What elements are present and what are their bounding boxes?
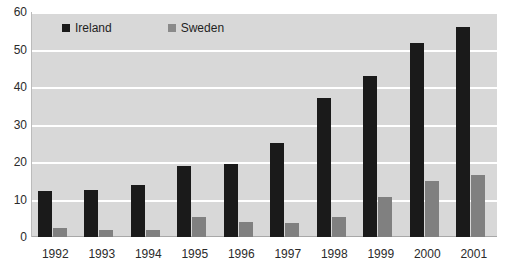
bar-sweden-1998 <box>332 217 346 237</box>
x-axis-tick-label: 1992 <box>32 248 79 260</box>
bar-group <box>79 12 126 237</box>
x-axis-tick-label: 1999 <box>358 248 405 260</box>
bar-ireland-1997 <box>270 143 284 237</box>
x-axis-tick-label: 1993 <box>79 248 126 260</box>
bar-ireland-1998 <box>317 98 331 237</box>
legend-label-sweden: Sweden <box>181 22 224 34</box>
legend-item-ireland: Ireland <box>62 22 112 34</box>
x-axis-tick-label: 2000 <box>404 248 451 260</box>
bar-ireland-1999 <box>363 76 377 237</box>
bar-group <box>404 12 451 237</box>
y-axis-tick-label: 40 <box>14 81 27 93</box>
bar-ireland-2000 <box>410 43 424 237</box>
x-axis-tick-label: 1998 <box>311 248 358 260</box>
y-axis-tick-label: 20 <box>14 156 27 168</box>
bar-group <box>125 12 172 237</box>
x-axis-tick-label: 1997 <box>265 248 312 260</box>
bar-group <box>265 12 312 237</box>
bar-sweden-1993 <box>99 230 113 237</box>
bar-ireland-1995 <box>177 166 191 237</box>
y-axis-tick-label: 60 <box>14 6 27 18</box>
bar-group <box>451 12 498 237</box>
x-axis-tick-label: 1995 <box>172 248 219 260</box>
bar-chart: 0102030405060 19921993199419951996199719… <box>0 0 506 271</box>
y-axis-tick-label: 0 <box>20 231 27 243</box>
y-axis-tick-label: 50 <box>14 44 27 56</box>
bar-ireland-1994 <box>131 185 145 238</box>
bar-sweden-1995 <box>192 217 206 237</box>
x-axis-tick-label: 1996 <box>218 248 265 260</box>
legend-label-ireland: Ireland <box>75 22 112 34</box>
chart-legend: Ireland Sweden <box>62 22 224 34</box>
bar-group <box>218 12 265 237</box>
legend-swatch-sweden-icon <box>168 24 176 32</box>
bar-sweden-1994 <box>146 230 160 237</box>
bar-ireland-2001 <box>456 27 470 237</box>
x-axis-labels: 1992199319941995199619971998199920002001 <box>32 248 497 268</box>
bar-ireland-1993 <box>84 190 98 237</box>
bars-layer <box>32 12 497 237</box>
legend-swatch-ireland-icon <box>62 24 70 32</box>
x-axis-tick-label: 2001 <box>451 248 498 260</box>
y-axis-tick-label: 10 <box>14 194 27 206</box>
bar-sweden-2001 <box>471 175 485 237</box>
y-axis-tick-label: 30 <box>14 119 27 131</box>
x-axis-tick-label: 1994 <box>125 248 172 260</box>
bar-group <box>358 12 405 237</box>
bar-sweden-1997 <box>285 223 299 237</box>
bar-group <box>311 12 358 237</box>
bar-group <box>32 12 79 237</box>
bar-sweden-2000 <box>425 181 439 237</box>
bar-group <box>172 12 219 237</box>
y-axis-labels: 0102030405060 <box>0 0 32 271</box>
bar-sweden-1996 <box>239 222 253 237</box>
bar-sweden-1992 <box>53 228 67 237</box>
bar-sweden-1999 <box>378 197 392 238</box>
legend-item-sweden: Sweden <box>168 22 224 34</box>
bar-ireland-1996 <box>224 164 238 237</box>
bar-ireland-1992 <box>38 191 52 237</box>
